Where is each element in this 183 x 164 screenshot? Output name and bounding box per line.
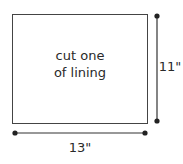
- pattern-diagram: cut one of lining 11" 13": [0, 0, 183, 164]
- height-dimension: 11": [154, 13, 181, 123]
- endpoint-dot-icon: [12, 130, 17, 135]
- width-dimension: 13": [12, 130, 147, 155]
- endpoint-dot-icon: [154, 118, 159, 123]
- instruction-line-2: of lining: [54, 65, 106, 80]
- height-label: 11": [159, 59, 182, 74]
- instruction-line-1: cut one: [56, 48, 105, 63]
- endpoint-dot-icon: [154, 13, 159, 18]
- endpoint-dot-icon: [142, 130, 147, 135]
- width-label: 13": [69, 140, 92, 155]
